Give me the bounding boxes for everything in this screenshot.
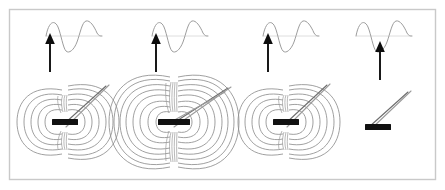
diagram-canvas	[0, 0, 445, 190]
bar-magnet-icon	[52, 119, 78, 125]
bar-magnet-icon	[158, 119, 190, 125]
bar-magnet-icon	[273, 119, 299, 125]
figure-root: Magnetic dipole field strength compariso…	[0, 0, 445, 190]
bar-magnet-icon	[365, 124, 391, 130]
